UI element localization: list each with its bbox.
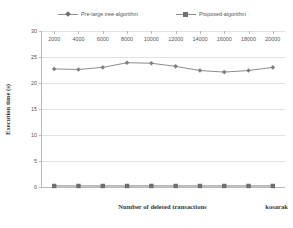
x-axis-tick (200, 31, 201, 34)
y-axis-tick-label: 20 (31, 80, 37, 86)
data-point-marker (101, 184, 105, 188)
legend-key-diamond-icon (58, 11, 78, 18)
y-axis-title: Execution time (s) (0, 31, 14, 187)
x-axis-tick (273, 31, 274, 34)
data-point-marker (52, 184, 56, 188)
data-point-marker (125, 60, 130, 65)
legend-key-square-icon (176, 11, 196, 18)
data-point-marker (149, 61, 154, 66)
data-point-marker (198, 184, 202, 188)
gridline (42, 135, 285, 136)
chart-figure: Pre-large tree-algorithm Proposed-algori… (0, 0, 293, 228)
data-point-marker (246, 68, 251, 73)
x-axis-tick (127, 31, 128, 34)
x-axis-tick-label: 16000 (217, 36, 232, 42)
data-point-marker (149, 184, 153, 188)
gridline (42, 57, 285, 58)
data-point-marker (173, 184, 177, 188)
data-point-marker (76, 184, 80, 188)
data-point-marker (173, 64, 178, 69)
y-axis-tick (39, 161, 42, 162)
y-axis-tick-label: 15 (31, 106, 37, 112)
x-axis-tick (151, 31, 152, 34)
gridline (42, 161, 285, 162)
x-axis-tick (103, 31, 104, 34)
y-axis-tick (39, 135, 42, 136)
y-axis-tick (39, 109, 42, 110)
x-axis-tick (54, 31, 55, 34)
y-axis-tick-label: 30 (31, 28, 37, 34)
gridline (42, 83, 285, 84)
x-axis-title: Number of deleted transactions (41, 203, 284, 210)
x-axis-tick (78, 31, 79, 34)
series-line (54, 63, 273, 72)
data-point-marker (100, 65, 105, 70)
y-axis-tick-label: 25 (31, 54, 37, 60)
y-axis-tick-label: 10 (31, 132, 37, 138)
legend-entry-proposed-algorithm: Proposed-algorithm (176, 11, 246, 18)
legend-label: Pre-large tree-algorithm (81, 11, 138, 17)
x-axis-tick-label: 4000 (72, 36, 84, 42)
data-point-marker (222, 70, 227, 75)
x-axis-tick (176, 31, 177, 34)
dataset-label: kosarak (265, 203, 288, 210)
y-axis-tick (39, 83, 42, 84)
x-axis-tick-label: 10000 (144, 36, 159, 42)
x-axis-tick (224, 31, 225, 34)
data-point-marker (271, 65, 276, 70)
data-point-marker (76, 67, 81, 72)
x-axis-tick-label: 20000 (265, 36, 280, 42)
x-axis-tick-label: 18000 (241, 36, 256, 42)
data-point-marker (222, 184, 226, 188)
data-point-marker (125, 184, 129, 188)
x-axis-tick-label: 6000 (97, 36, 109, 42)
plot-area: 0510152025302000400060008000100001200014… (41, 31, 285, 188)
data-point-marker (198, 68, 203, 73)
x-axis-tick (249, 31, 250, 34)
y-axis-tick (39, 57, 42, 58)
y-axis-tick-label: 0 (34, 184, 37, 190)
x-axis-tick-label: 12000 (168, 36, 183, 42)
data-point-marker (52, 67, 57, 72)
y-axis-tick-label: 5 (34, 158, 37, 164)
legend-entry-pre-large-tree-algorithm: Pre-large tree-algorithm (58, 11, 138, 18)
chart-legend: Pre-large tree-algorithm Proposed-algori… (58, 7, 283, 21)
x-axis-tick-label: 8000 (121, 36, 133, 42)
series-2 (52, 184, 275, 188)
data-point-marker (246, 184, 250, 188)
gridline (42, 109, 285, 110)
x-axis-tick-label: 14000 (192, 36, 207, 42)
y-axis-tick (39, 31, 42, 32)
series-1 (52, 60, 275, 74)
legend-label: Proposed-algorithm (199, 11, 246, 17)
y-axis-tick (39, 187, 42, 188)
data-point-marker (271, 184, 275, 188)
x-axis-tick-label: 2000 (48, 36, 60, 42)
